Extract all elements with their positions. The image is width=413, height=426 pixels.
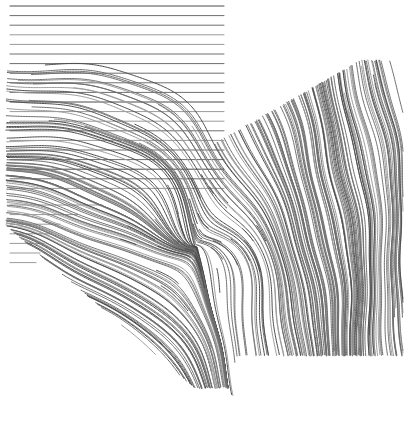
ridge-flow-figure: Fingerprint ridge flow reconstruction Th… xyxy=(0,0,413,426)
ridge-flow-canvas xyxy=(0,0,413,426)
